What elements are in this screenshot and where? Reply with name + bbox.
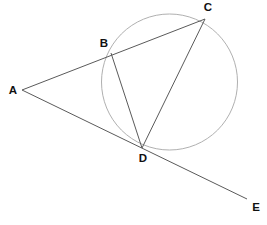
vertex-label-d: D (139, 152, 147, 164)
geometry-canvas: A B C D E (0, 0, 267, 225)
vertex-label-a: A (9, 84, 17, 96)
chord-b-to-d (111, 53, 142, 148)
secant-a-to-c (22, 19, 205, 90)
circle-shape (102, 14, 238, 150)
chord-c-to-d (142, 19, 205, 148)
vertex-label-b: B (100, 37, 108, 49)
secant-a-to-e (22, 90, 247, 199)
vertex-label-e: E (252, 201, 260, 213)
geometry-diagram: A B C D E (0, 0, 267, 225)
vertex-label-c: C (204, 1, 212, 13)
